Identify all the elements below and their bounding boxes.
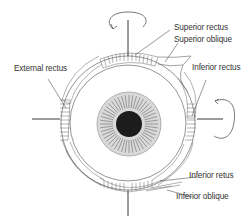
superior-rectus-muscle: [100, 53, 158, 68]
inferior-muscles-bottom: [66, 150, 182, 192]
superior-oblique-muscle: [158, 56, 191, 92]
label-inferior-oblique: Inferior oblique: [176, 193, 229, 201]
iris: [97, 92, 161, 156]
pupil: [116, 111, 142, 137]
label-inferior-retus: Inferior retus: [189, 172, 234, 180]
label-inferior-rectus-upper: Inferior rectus: [192, 64, 241, 72]
label-superior-rectus: Superior rectus: [174, 24, 228, 32]
label-superior-oblique: Superior oblique: [174, 36, 232, 44]
label-external-rectus: External rectus: [14, 65, 67, 73]
eye-muscle-diagram: [0, 0, 251, 224]
